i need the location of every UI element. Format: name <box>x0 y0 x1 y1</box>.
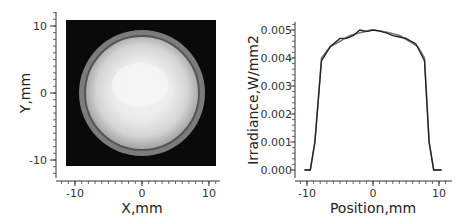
x-tick-label: 0 <box>139 187 146 200</box>
figure: 10 0 -10 -10 0 10 X,mm Y,mm 0.005 0.004 … <box>0 0 464 224</box>
y-tick-label: 0 <box>40 87 47 100</box>
profile-smooth-line <box>304 30 441 170</box>
x-tick-label: -10 <box>298 187 316 200</box>
y-tick-label: 0.004 <box>261 52 293 65</box>
y-tick-label: 0.005 <box>261 24 293 37</box>
x-axis-label: Position,mm <box>330 200 416 216</box>
y-axis-label: Irradiance,W/mm2 <box>245 35 261 165</box>
y-tick-label: 0.002 <box>261 108 293 121</box>
heatmap-plot: 10 0 -10 -10 0 10 X,mm Y,mm <box>17 12 220 216</box>
x-axis-label: X,mm <box>121 200 162 216</box>
x-tick-label: 0 <box>370 187 377 200</box>
y-tick-label: 0.000 <box>261 164 293 177</box>
y-tick-label: 0.003 <box>261 80 293 93</box>
x-tick-label: 10 <box>202 187 216 200</box>
hot-spot <box>112 63 168 107</box>
x-tick-label: 10 <box>432 187 446 200</box>
y-tick-label: 10 <box>33 20 47 33</box>
profile-plot: 0.005 0.004 0.003 0.002 0.001 0.000 -10 … <box>245 22 452 216</box>
y-axis-label: Y,mm <box>17 73 33 114</box>
right-y-major-ticks <box>290 30 295 170</box>
y-tick-label: -10 <box>29 154 47 167</box>
y-tick-label: 0.001 <box>261 136 293 149</box>
x-tick-label: -10 <box>66 187 84 200</box>
